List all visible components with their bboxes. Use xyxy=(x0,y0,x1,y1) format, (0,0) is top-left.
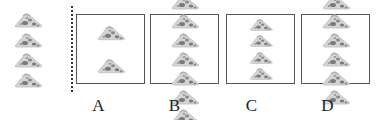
reference-group xyxy=(10,12,46,88)
pizza-slice-icon xyxy=(321,13,351,29)
option-box-c[interactable] xyxy=(226,14,295,84)
pizza-slice-icon xyxy=(13,32,43,48)
option-label-c[interactable]: C xyxy=(217,96,286,116)
pizza-slice-icon xyxy=(13,72,43,88)
pizza-slice-icon xyxy=(170,0,200,10)
option-box-d[interactable] xyxy=(301,14,370,84)
pizza-slice-icon xyxy=(96,51,126,81)
option-label-d[interactable]: D xyxy=(293,96,362,116)
pizza-slice-icon xyxy=(246,18,276,31)
pizza-slice-icon xyxy=(13,52,43,68)
pizza-slice-icon xyxy=(13,12,43,28)
pizza-slice-icon xyxy=(321,70,351,86)
option-box-b[interactable] xyxy=(150,14,219,84)
option-label-a[interactable]: A xyxy=(64,96,133,116)
pizza-slice-icon xyxy=(96,18,126,48)
dotted-divider xyxy=(71,6,73,92)
pizza-slice-icon xyxy=(170,51,200,67)
pizza-slice-icon xyxy=(246,51,276,64)
pizza-slice-icon xyxy=(321,51,351,67)
option-box-a[interactable] xyxy=(76,14,145,84)
pizza-slice-icon xyxy=(170,13,200,29)
pizza-slice-icon xyxy=(170,32,200,48)
pizza-slice-icon xyxy=(246,34,276,47)
pizza-slice-icon xyxy=(321,32,351,48)
option-label-b[interactable]: B xyxy=(140,96,209,116)
pizza-slice-icon xyxy=(170,70,200,86)
pizza-slice-icon xyxy=(321,0,351,10)
pizza-slice-icon xyxy=(246,67,276,80)
